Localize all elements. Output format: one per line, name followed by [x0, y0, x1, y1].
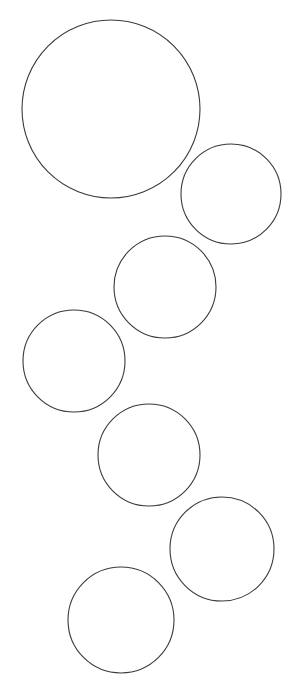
circles-figure: [0, 0, 299, 692]
figure-canvas: [0, 0, 299, 692]
figure-background: [0, 0, 299, 692]
